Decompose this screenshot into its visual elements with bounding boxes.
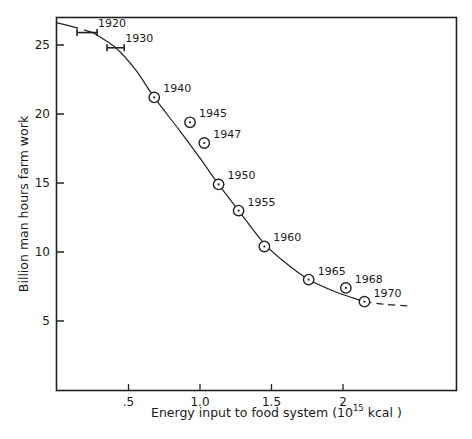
- data-point-1950: 1950: [213, 169, 255, 189]
- point-label: 1930: [125, 32, 153, 45]
- point-label: 1950: [228, 169, 256, 182]
- curve-extrapolation-end: [364, 302, 407, 306]
- data-points: 1920193019401945194719501955196019651968…: [77, 17, 401, 307]
- y-tick-label: 25: [35, 38, 50, 52]
- y-tick-label: 5: [42, 314, 50, 328]
- x-tick-label: .5: [123, 395, 134, 409]
- point-label: 1960: [273, 231, 301, 244]
- curve-main: [93, 33, 365, 302]
- y-tick-label: 15: [35, 176, 50, 190]
- point-label: 1940: [163, 82, 191, 95]
- curve-extrapolation-start: [57, 23, 93, 33]
- data-point-1920: 1920: [77, 17, 126, 36]
- data-point-1945: 1945: [185, 107, 227, 127]
- chart: 510152025 .51.01.52 19201930194019451947…: [0, 0, 472, 439]
- point-label: 1968: [355, 273, 383, 286]
- trend-curve: [57, 23, 407, 306]
- data-point-1955: 1955: [233, 196, 275, 216]
- point-label: 1947: [213, 128, 241, 141]
- y-tick-label: 10: [35, 245, 50, 259]
- y-axis-ticks: 510152025: [35, 38, 64, 328]
- y-tick-label: 20: [35, 107, 50, 121]
- data-point-1947: 1947: [199, 128, 241, 148]
- point-label: 1920: [98, 17, 126, 30]
- data-point-1940: 1940: [149, 82, 191, 102]
- point-label: 1955: [248, 196, 276, 209]
- x-axis-title: Energy input to food system (1015 kcal ): [151, 403, 402, 420]
- data-point-1965: 1965: [303, 265, 345, 285]
- y-axis-title: Billion man hours farm work: [16, 115, 31, 292]
- point-label: 1965: [318, 265, 346, 278]
- data-point-1960: 1960: [259, 231, 301, 251]
- data-point-1930: 1930: [107, 32, 153, 52]
- point-label: 1945: [199, 107, 227, 120]
- point-label: 1970: [373, 287, 401, 300]
